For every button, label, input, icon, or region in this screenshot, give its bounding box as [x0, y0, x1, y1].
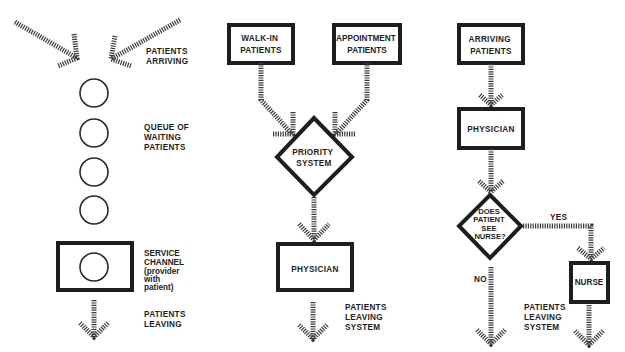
queue-patient-3	[80, 158, 108, 186]
label-patients-leaving-system: PATIENTS LEAVING SYSTEM	[524, 303, 568, 332]
arrow-leaving	[80, 300, 108, 337]
panel-nurse-decision: ARRIVING PATIENTS PHYSICIAN DOES PATIENT…	[459, 25, 608, 345]
arriving-patients-box	[459, 25, 523, 63]
arrow-appointment-to-priority	[335, 63, 367, 134]
physician-label: PHYSICIAN	[467, 125, 514, 134]
arrow-yes-to-nurse	[523, 226, 604, 259]
label-queue-of-waiting-patients: QUEUE OF WAITING PATIENTS	[144, 123, 192, 152]
edge-label-yes: YES	[550, 213, 568, 222]
label-patients-leaving-system: PATIENTS LEAVING SYSTEM	[345, 303, 389, 332]
label-service-channel: SERVICE CHANNEL (provider with patient)	[143, 249, 186, 292]
queue-patient-1	[80, 79, 108, 107]
appointment-patients-box	[334, 25, 400, 63]
arrow-physician-to-decision	[479, 149, 503, 192]
edge-label-no: NO	[474, 275, 487, 284]
arrow-arriving-to-physician	[480, 64, 502, 105]
label-patients-arriving: PATIENTS ARRIVING	[146, 47, 190, 66]
arrow-priority-to-physician	[299, 197, 329, 240]
queue-patient-4	[80, 196, 108, 224]
nurse-label: NURSE	[575, 278, 604, 287]
arrow-arriving-left	[15, 22, 77, 66]
arrow-nurse-leaving	[575, 305, 603, 345]
arrow-leaving-system	[299, 302, 327, 339]
walk-in-patients-box	[229, 25, 293, 63]
patient-in-service	[80, 253, 108, 281]
diagram-canvas: PATIENTS ARRIVING QUEUE OF WAITING PATIE…	[0, 0, 625, 352]
label-patients-leaving: PATIENTS LEAVING	[144, 310, 188, 329]
panel-priority-system: WALK-IN PATIENTS APPOINTMENT PATIENTS PR…	[229, 25, 400, 339]
arrow-walk-in-to-priority	[261, 63, 293, 134]
panel-single-channel-queue: PATIENTS ARRIVING QUEUE OF WAITING PATIE…	[15, 20, 192, 337]
physician-label: PHYSICIAN	[291, 265, 338, 274]
queue-patient-2	[80, 119, 108, 147]
